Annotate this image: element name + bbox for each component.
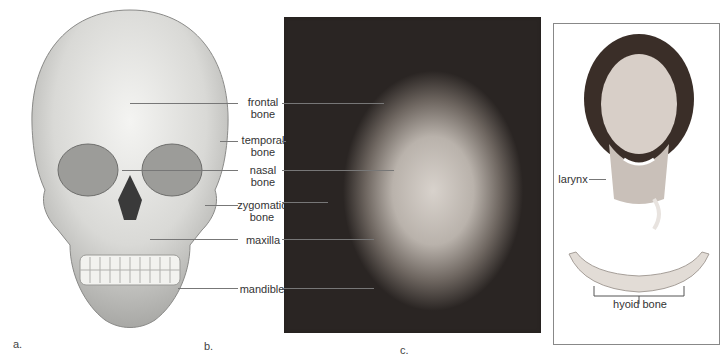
panel-letter-a: a. [13,338,22,350]
label-maxilla: maxilla [236,234,290,246]
leader-nasal-a [122,170,238,171]
skull-icon [10,5,250,340]
leader-mandible-b [282,288,374,289]
leader-maxilla-b [282,239,374,240]
leader-larynx [589,179,606,180]
leader-maxilla-a [150,239,238,240]
label-larynx: larynx [555,173,591,185]
leader-nasal-b [282,170,394,171]
leader-frontal-a [130,103,238,104]
leader-temporal-b [282,141,286,142]
face-photograph [284,17,541,333]
panel-letter-c: c. [400,344,409,355]
label-nasal-bone: nasal bone [240,164,286,188]
label-frontal-bone: frontal bone [238,96,288,120]
leader-frontal-b [282,103,384,104]
label-hyoid-bone: hyoid bone [600,298,680,310]
panel-letter-b: b. [204,340,213,352]
skull-illustration [10,5,250,340]
leader-mandible-a [178,288,238,289]
leader-zygomatic-b [282,202,328,203]
